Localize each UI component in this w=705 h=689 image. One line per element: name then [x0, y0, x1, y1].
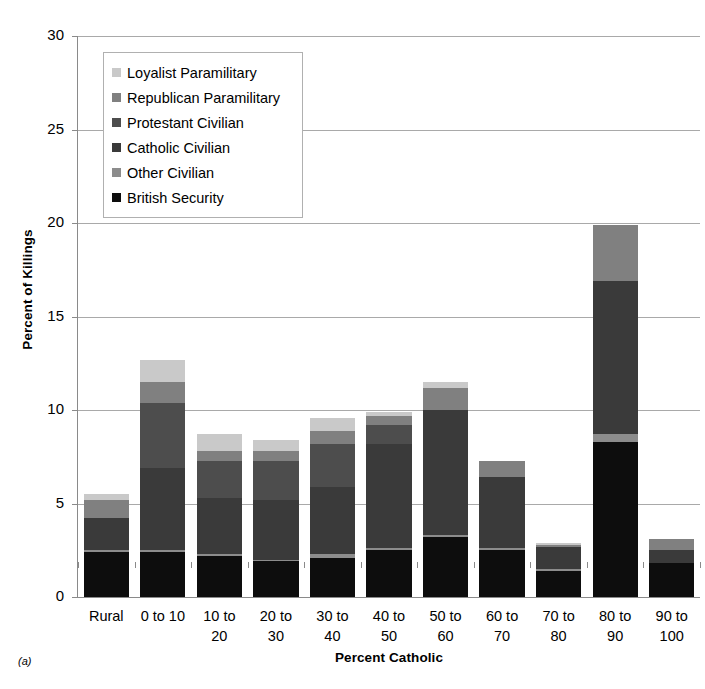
- bar-segment[interactable]: [253, 451, 298, 460]
- panel-label: (a): [18, 655, 31, 667]
- bar-segment[interactable]: [423, 388, 468, 410]
- bar-stack[interactable]: [84, 494, 129, 597]
- legend-item[interactable]: Republican Paramilitary: [104, 85, 302, 110]
- bar-segment[interactable]: [479, 461, 524, 478]
- bar-segment[interactable]: [593, 434, 638, 441]
- bar-segment[interactable]: [310, 444, 355, 487]
- bar-stack[interactable]: [593, 225, 638, 597]
- x-tick-mark: [361, 562, 362, 568]
- bar-segment[interactable]: [140, 403, 185, 468]
- bar-segment[interactable]: [140, 552, 185, 597]
- bar-segment[interactable]: [84, 552, 129, 597]
- y-tick-label-15: 15: [0, 307, 64, 324]
- figure-panel-a: Percent of Killings 051015202530 Rural0 …: [0, 0, 705, 689]
- bar-stack[interactable]: [140, 360, 185, 597]
- x-axis-title: Percent Catholic: [78, 650, 700, 665]
- x-tick-label: 80 to 90: [587, 606, 644, 646]
- bar-stack[interactable]: [253, 440, 298, 597]
- y-tick-mark-10: [72, 410, 78, 411]
- legend-swatch-icon: [112, 168, 121, 177]
- x-tick-mark: [587, 562, 588, 568]
- legend-swatch-icon: [112, 118, 121, 127]
- bar-segment[interactable]: [593, 281, 638, 434]
- bar-segment[interactable]: [197, 434, 242, 451]
- x-tick-label: 40 to 50: [361, 606, 418, 646]
- bar-segment[interactable]: [140, 360, 185, 382]
- bar-segment[interactable]: [423, 410, 468, 535]
- bar-segment[interactable]: [366, 444, 411, 549]
- y-tick-mark-20: [72, 223, 78, 224]
- x-tick-mark: [135, 562, 136, 568]
- legend-label: Catholic Civilian: [127, 140, 230, 156]
- bar-stack[interactable]: [310, 418, 355, 597]
- y-tick-mark-0: [72, 597, 78, 598]
- bar-segment[interactable]: [479, 550, 524, 597]
- gridline-20: [78, 223, 700, 224]
- bar-segment[interactable]: [84, 518, 129, 550]
- bar-segment[interactable]: [366, 550, 411, 597]
- bar-segment[interactable]: [593, 442, 638, 597]
- legend-item[interactable]: Loyalist Paramilitary: [104, 60, 302, 85]
- bar-segment[interactable]: [253, 440, 298, 451]
- x-tick-mark: [643, 562, 644, 568]
- legend-label: Other Civilian: [127, 165, 214, 181]
- x-tick-label: 50 to 60: [417, 606, 474, 646]
- bar-segment[interactable]: [140, 382, 185, 403]
- legend-swatch-icon: [112, 93, 121, 102]
- legend: Loyalist ParamilitaryRepublican Paramili…: [103, 52, 303, 218]
- bar-segment[interactable]: [253, 561, 298, 597]
- bar-stack[interactable]: [197, 434, 242, 597]
- bar-segment[interactable]: [253, 500, 298, 560]
- bar-segment[interactable]: [649, 563, 694, 597]
- bar-stack[interactable]: [366, 412, 411, 597]
- bar-segment[interactable]: [310, 487, 355, 554]
- x-tick-mark: [417, 562, 418, 568]
- x-tick-label: 30 to 40: [304, 606, 361, 646]
- bar-segment[interactable]: [197, 556, 242, 597]
- y-tick-label-5: 5: [0, 494, 64, 511]
- gridline-30: [78, 36, 700, 37]
- legend-item[interactable]: Protestant Civilian: [104, 110, 302, 135]
- bar-segment[interactable]: [197, 498, 242, 554]
- x-tick-label: 90 to 100: [643, 606, 700, 646]
- bar-segment[interactable]: [366, 425, 411, 444]
- y-tick-mark-25: [72, 130, 78, 131]
- x-tick-label: 60 to 70: [474, 606, 531, 646]
- bar-segment[interactable]: [649, 539, 694, 550]
- legend-swatch-icon: [112, 143, 121, 152]
- legend-item[interactable]: British Security: [104, 185, 302, 210]
- bar-segment[interactable]: [366, 416, 411, 425]
- bar-segment[interactable]: [197, 451, 242, 460]
- bar-segment[interactable]: [649, 550, 694, 563]
- x-tick-mark: [474, 562, 475, 568]
- bar-segment[interactable]: [197, 461, 242, 498]
- bar-segment[interactable]: [310, 558, 355, 597]
- legend-item[interactable]: Other Civilian: [104, 160, 302, 185]
- bar-segment[interactable]: [310, 418, 355, 431]
- bar-segment[interactable]: [593, 225, 638, 281]
- bar-segment[interactable]: [423, 537, 468, 597]
- legend-label: Protestant Civilian: [127, 115, 244, 131]
- x-axis-line: [77, 597, 700, 598]
- x-tick-label: 10 to 20: [191, 606, 248, 646]
- legend-item[interactable]: Catholic Civilian: [104, 135, 302, 160]
- bar-segment[interactable]: [84, 500, 129, 519]
- bar-segment[interactable]: [310, 431, 355, 444]
- bar-segment[interactable]: [140, 468, 185, 550]
- y-tick-mark-30: [72, 36, 78, 37]
- bar-segment[interactable]: [479, 477, 524, 548]
- bar-segment[interactable]: [536, 571, 581, 597]
- x-tick-label: 0 to 10: [135, 606, 192, 626]
- legend-swatch-icon: [112, 68, 121, 77]
- bar-segment[interactable]: [253, 461, 298, 500]
- bar-stack[interactable]: [423, 382, 468, 597]
- legend-label: British Security: [127, 190, 224, 206]
- legend-label: Loyalist Paramilitary: [127, 65, 257, 81]
- bar-segment[interactable]: [536, 547, 581, 569]
- bar-stack[interactable]: [536, 543, 581, 597]
- bar-stack[interactable]: [479, 461, 524, 597]
- x-tick-mark: [191, 562, 192, 568]
- legend-label: Republican Paramilitary: [127, 90, 280, 106]
- x-tick-mark: [248, 562, 249, 568]
- bar-stack[interactable]: [649, 539, 694, 597]
